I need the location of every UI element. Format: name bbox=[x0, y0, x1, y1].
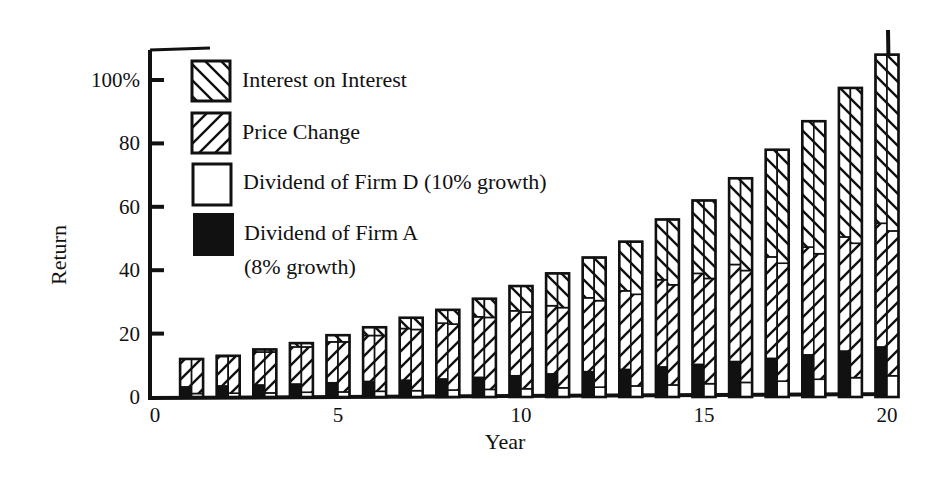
bar-segment bbox=[510, 286, 522, 311]
bar-segment bbox=[411, 329, 423, 390]
bar-segment bbox=[484, 299, 496, 318]
bar-segment bbox=[228, 356, 240, 393]
bar-segment bbox=[693, 364, 705, 397]
bar-segment bbox=[594, 387, 606, 397]
bar-segment bbox=[619, 369, 631, 397]
x-tick-label: 0 bbox=[150, 403, 161, 427]
bar-year-9 bbox=[473, 299, 496, 397]
bar-year-3 bbox=[253, 349, 276, 397]
bar-segment bbox=[253, 352, 264, 385]
bar-segment bbox=[741, 271, 753, 383]
bar-segment bbox=[558, 273, 570, 307]
bar-year-14 bbox=[656, 219, 679, 397]
x-axis-ticks: 05101520 bbox=[150, 403, 898, 427]
bar-segment bbox=[693, 273, 705, 364]
bar-segment bbox=[583, 372, 595, 397]
y-axis-ticks: 020406080100% bbox=[91, 68, 164, 409]
bar-segment bbox=[558, 308, 570, 388]
bar-segment bbox=[558, 388, 570, 397]
bar-segment bbox=[729, 264, 741, 361]
y-tick-label: 40 bbox=[119, 258, 140, 282]
bar-year-4 bbox=[290, 343, 313, 397]
bar-segment bbox=[510, 376, 522, 397]
bar-segment bbox=[448, 324, 460, 390]
bar-segment bbox=[887, 376, 899, 397]
bar-year-5 bbox=[327, 335, 350, 397]
y-tick-label: 60 bbox=[119, 195, 140, 219]
bar-segment bbox=[887, 55, 899, 231]
y-tick-label: 80 bbox=[119, 131, 140, 155]
bar-segment bbox=[583, 258, 595, 298]
bar-year-15 bbox=[693, 200, 716, 397]
y-tick-label: 100% bbox=[91, 68, 140, 92]
bar-year-17 bbox=[766, 150, 789, 397]
bar-segment bbox=[839, 351, 851, 397]
bar-segment bbox=[814, 254, 826, 380]
bar-segment bbox=[667, 285, 679, 385]
bar-segment bbox=[594, 301, 606, 388]
bar-segment bbox=[583, 298, 595, 372]
bar-year-1 bbox=[180, 359, 203, 397]
bar-year-11 bbox=[546, 273, 569, 397]
bar-segment bbox=[217, 356, 229, 385]
x-tick-label: 15 bbox=[694, 403, 715, 427]
bar-segment bbox=[619, 242, 631, 291]
y-axis-title: Return bbox=[46, 225, 71, 285]
bar-segment bbox=[400, 329, 412, 381]
bar-segment bbox=[850, 88, 862, 243]
legend-label: Interest on Interest bbox=[242, 67, 407, 92]
bar-segment bbox=[327, 342, 339, 383]
legend-label: Price Change bbox=[242, 119, 360, 144]
bar-segment bbox=[363, 336, 375, 382]
bar-segment bbox=[290, 384, 302, 397]
bar-segment bbox=[521, 286, 533, 312]
bar-segment bbox=[802, 121, 814, 247]
bar-segment bbox=[619, 291, 631, 370]
back-hatch-swatch-icon bbox=[192, 61, 230, 101]
stacked-bar-chart: 020406080100% 05101520 Return Year Inter… bbox=[0, 0, 942, 500]
bar-segment bbox=[777, 381, 789, 397]
bar-segment bbox=[436, 323, 448, 379]
bar-segment bbox=[594, 258, 606, 301]
bar-segment bbox=[802, 247, 814, 355]
x-tick-label: 20 bbox=[877, 403, 898, 427]
legend-item-dividend-firm-d: Dividend of Firm D (10% growth) bbox=[193, 164, 547, 205]
bar-segment bbox=[521, 312, 533, 389]
y-tick-label: 20 bbox=[119, 322, 140, 346]
bar-segment bbox=[814, 121, 826, 254]
bar-segment bbox=[777, 150, 789, 263]
bar-segment bbox=[327, 383, 339, 397]
bar-segment bbox=[436, 379, 448, 397]
y-tick-label: 0 bbox=[130, 385, 141, 409]
bar-segment bbox=[436, 310, 448, 323]
bar-segment bbox=[777, 263, 789, 381]
bar-segment bbox=[876, 55, 888, 224]
bar-year-7 bbox=[400, 318, 423, 397]
x-tick-label: 5 bbox=[333, 403, 344, 427]
forward-hatch-swatch-icon bbox=[192, 113, 230, 153]
bar-segment bbox=[484, 317, 496, 389]
bar-segment bbox=[338, 342, 350, 392]
legend-item-interest-on-interest: Interest on Interest bbox=[192, 61, 407, 101]
bar-segment bbox=[631, 242, 643, 295]
bar-year-6 bbox=[363, 327, 386, 397]
bar-segment bbox=[839, 88, 851, 237]
bar-segment bbox=[766, 358, 778, 397]
x-tick-label: 10 bbox=[511, 403, 532, 427]
bar-segment bbox=[850, 243, 862, 377]
bar-segment bbox=[400, 380, 412, 397]
legend-label: Dividend of Firm D (10% growth) bbox=[243, 169, 547, 194]
bar-segment bbox=[631, 386, 643, 397]
bar-segment bbox=[363, 381, 375, 397]
bar-year-18 bbox=[802, 121, 825, 397]
white-swatch-icon bbox=[193, 164, 231, 205]
bar-segment bbox=[850, 378, 862, 397]
bar-segment bbox=[473, 317, 485, 378]
bar-segment bbox=[729, 178, 741, 264]
bar-year-12 bbox=[583, 258, 606, 397]
bar-segment bbox=[180, 359, 192, 387]
bar-segment bbox=[217, 386, 229, 397]
legend-item-price-change: Price Change bbox=[192, 113, 360, 153]
bar-segment bbox=[729, 361, 741, 397]
bar-segment bbox=[766, 150, 778, 257]
